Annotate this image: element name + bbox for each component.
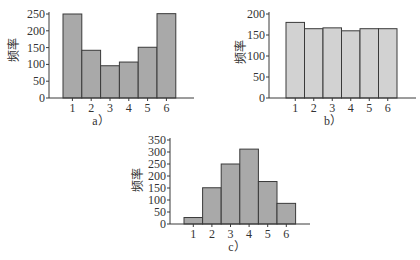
x-tick-label: 1	[292, 101, 298, 115]
histogram-a: 050100150200250123456频率a）	[6, 7, 195, 128]
bar-5	[138, 47, 157, 98]
y-tick-label: 100	[148, 193, 166, 207]
y-tick-label: 250	[27, 7, 45, 21]
y-axis-label: 频率	[233, 40, 248, 64]
bar-1	[184, 218, 203, 224]
bar-1	[63, 14, 82, 98]
bar-4	[119, 62, 138, 98]
x-tick-label: 3	[228, 227, 234, 241]
x-tick-label: 6	[385, 101, 391, 115]
x-tick-label: 5	[366, 101, 372, 115]
y-tick-label: 150	[148, 181, 166, 195]
y-tick-label: 150	[27, 41, 45, 55]
subfigure-caption: b）	[324, 114, 342, 128]
bar-4	[342, 31, 361, 98]
subfigure-caption: c）	[228, 240, 245, 254]
bar-6	[277, 203, 296, 224]
bar-3	[101, 66, 120, 98]
y-tick-label: 50	[33, 74, 45, 88]
y-tick-label: 100	[247, 49, 265, 63]
bar-2	[82, 50, 101, 98]
bar-5	[258, 182, 277, 224]
bar-6	[157, 14, 176, 98]
histogram-figure: 050100150200250123456频率a） 05010015020012…	[0, 0, 420, 260]
y-tick-label: 300	[148, 145, 166, 159]
x-tick-label: 2	[209, 227, 215, 241]
y-tick-label: 0	[39, 91, 45, 105]
x-tick-label: 3	[107, 101, 113, 115]
x-tick-label: 4	[126, 101, 132, 115]
y-tick-label: 150	[247, 28, 265, 42]
y-tick-label: 200	[27, 24, 45, 38]
y-axis-label: 频率	[6, 38, 21, 62]
y-axis-label: 频率	[130, 168, 145, 192]
x-tick-label: 2	[311, 101, 317, 115]
y-tick-label: 50	[154, 205, 166, 219]
y-tick-label: 0	[259, 91, 265, 105]
y-tick-label: 50	[253, 70, 265, 84]
bar-3	[323, 28, 342, 98]
bar-4	[240, 149, 259, 224]
bar-3	[221, 164, 240, 224]
x-tick-label: 5	[145, 101, 151, 115]
y-tick-label: 100	[27, 57, 45, 71]
x-tick-label: 3	[329, 101, 335, 115]
subfigure-caption: a）	[92, 114, 109, 128]
x-tick-label: 1	[190, 227, 196, 241]
x-tick-label: 5	[265, 227, 271, 241]
bar-2	[203, 188, 222, 224]
bar-1	[286, 22, 305, 98]
x-tick-label: 6	[163, 101, 169, 115]
bar-5	[360, 29, 379, 98]
y-tick-label: 0	[160, 217, 166, 231]
x-tick-label: 6	[283, 227, 289, 241]
x-tick-label: 4	[348, 101, 354, 115]
histogram-c: 050100150200250300350123456频率c）	[130, 133, 311, 254]
y-tick-label: 200	[247, 7, 265, 21]
y-tick-label: 200	[148, 169, 166, 183]
y-tick-label: 250	[148, 157, 166, 171]
x-tick-label: 4	[246, 227, 252, 241]
histogram-b: 050100150200123456频率b）	[233, 7, 417, 128]
x-tick-label: 2	[88, 101, 94, 115]
bar-2	[305, 29, 324, 98]
bar-6	[379, 29, 398, 98]
x-tick-label: 1	[69, 101, 75, 115]
y-tick-label: 350	[148, 133, 166, 147]
